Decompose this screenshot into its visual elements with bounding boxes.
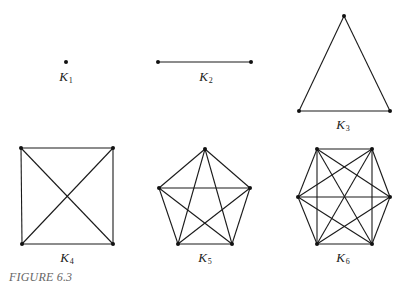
edge — [298, 149, 317, 197]
graph-k1 — [64, 60, 68, 64]
vertex-dot — [230, 242, 234, 246]
edge — [159, 149, 205, 188]
graph-k4 — [19, 146, 115, 246]
label-k6: K6 — [336, 251, 350, 266]
graph-k5 — [157, 147, 252, 246]
edge — [159, 188, 178, 244]
label-letter: K — [336, 250, 345, 265]
edge — [205, 149, 250, 188]
edge — [317, 197, 390, 244]
label-letter: K — [198, 250, 207, 265]
figure-caption: FIGURE 6.3 — [9, 270, 72, 285]
vertex-dot — [296, 195, 300, 199]
edge — [178, 149, 205, 244]
vertex-dot — [297, 109, 301, 113]
edge — [159, 188, 232, 244]
vertex-dot — [157, 186, 161, 190]
edge — [299, 16, 344, 111]
edge — [372, 197, 390, 244]
label-subscript: 4 — [70, 257, 74, 266]
graph-k3 — [297, 14, 392, 113]
edge — [232, 188, 250, 244]
label-letter: K — [59, 69, 68, 84]
label-k1: K1 — [59, 70, 73, 85]
complete-graphs-figure — [0, 0, 413, 288]
edge — [178, 188, 250, 244]
vertex-dot — [176, 242, 180, 246]
graph-k6 — [296, 147, 392, 246]
vertex-dot — [248, 186, 252, 190]
vertex-dot — [370, 147, 374, 151]
vertex-dot — [64, 60, 68, 64]
graph-k2 — [156, 60, 253, 64]
edge — [344, 16, 390, 111]
vertex-dot — [111, 146, 115, 150]
vertex-dot — [111, 242, 115, 246]
vertex-dot — [388, 195, 392, 199]
vertex-dot — [315, 147, 319, 151]
label-subscript: 5 — [208, 257, 212, 266]
edge — [298, 197, 372, 244]
label-subscript: 6 — [346, 257, 350, 266]
label-letter: K — [336, 117, 345, 132]
label-letter: K — [199, 69, 208, 84]
edge — [205, 149, 232, 244]
vertex-dot — [203, 147, 207, 151]
label-k4: K4 — [60, 251, 74, 266]
vertex-dot — [19, 146, 23, 150]
vertex-dot — [388, 109, 392, 113]
label-subscript: 2 — [209, 76, 213, 85]
vertex-dot — [370, 242, 374, 246]
label-subscript: 1 — [69, 76, 73, 85]
label-subscript: 3 — [346, 124, 350, 133]
edge — [317, 149, 390, 197]
edge — [372, 149, 390, 197]
label-k5: K5 — [198, 251, 212, 266]
label-k3: K3 — [336, 118, 350, 133]
vertex-dot — [249, 60, 253, 64]
label-letter: K — [60, 250, 69, 265]
label-k2: K2 — [199, 70, 213, 85]
edge — [298, 197, 317, 244]
edge — [21, 148, 22, 244]
vertex-dot — [156, 60, 160, 64]
edge — [298, 149, 372, 197]
vertex-dot — [20, 242, 24, 246]
vertex-dot — [315, 242, 319, 246]
vertex-dot — [342, 14, 346, 18]
